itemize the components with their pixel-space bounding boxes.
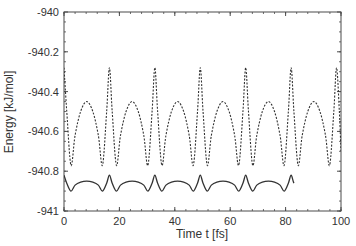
y-tick-label: -940 (37, 6, 59, 18)
y-axis-label: Energy [kJ/mol] (2, 71, 16, 154)
dashed-energy-series (64, 68, 341, 166)
x-tick-label: 0 (61, 215, 67, 227)
y-tick-label: -940.6 (28, 125, 59, 137)
x-axis-label: Time t [fs] (176, 227, 228, 241)
x-tick-label: 60 (224, 215, 236, 227)
series-layer (64, 68, 341, 191)
solid-energy-series (64, 175, 294, 191)
x-tick-label: 40 (169, 215, 181, 227)
energy-time-chart: -940-940.2-940.4-940.6-940.8-941 0204060… (0, 0, 356, 246)
y-tick-label: -940.2 (28, 46, 59, 58)
y-tick-label: -941 (37, 205, 59, 217)
y-tick-label: -940.4 (28, 86, 59, 98)
x-tick-label: 80 (279, 215, 291, 227)
y-tick-label: -940.8 (28, 165, 59, 177)
x-tick-labels: 020406080100 (61, 215, 350, 227)
x-tick-label: 100 (332, 215, 350, 227)
x-tick-label: 20 (113, 215, 125, 227)
y-tick-labels: -940-940.2-940.4-940.6-940.8-941 (28, 6, 59, 217)
